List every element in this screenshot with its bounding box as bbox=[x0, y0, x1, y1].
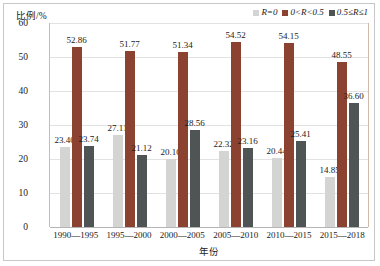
bar-slot: 20.10 bbox=[166, 23, 176, 227]
bar-slot: 21.12 bbox=[137, 23, 147, 227]
bar-group: 27.1151.7721.12 bbox=[103, 23, 156, 227]
bar-slot: 51.77 bbox=[125, 23, 135, 227]
y-tick-label-50: 50 bbox=[0, 52, 28, 62]
bar-slot: 28.56 bbox=[190, 23, 200, 227]
bar[interactable] bbox=[325, 177, 335, 227]
bar[interactable] bbox=[243, 148, 253, 227]
y-tick-label-40: 40 bbox=[0, 86, 28, 96]
x-tick-label: 2005—2010 bbox=[209, 230, 262, 240]
y-tick-label-10: 10 bbox=[0, 188, 28, 198]
y-tick-label-20: 20 bbox=[0, 154, 28, 164]
bar[interactable] bbox=[272, 158, 282, 227]
legend-swatch-r-between-0-and-half bbox=[282, 10, 288, 16]
legend-swatch-r-equals-0 bbox=[253, 10, 259, 16]
bar-slot: 54.15 bbox=[284, 23, 294, 227]
x-tick-label: 2000—2005 bbox=[156, 230, 209, 240]
plot-area: 0102030405060 23.4052.8623.7427.1151.772… bbox=[49, 23, 369, 227]
legend-item-r-equals-0: R=0 bbox=[253, 8, 277, 17]
bar-slot: 54.52 bbox=[231, 23, 241, 227]
y-tick-label-30: 30 bbox=[0, 120, 28, 130]
bar[interactable] bbox=[349, 103, 359, 227]
x-tick-label: 1990—1995 bbox=[49, 230, 102, 240]
bar[interactable] bbox=[296, 141, 306, 227]
bar[interactable] bbox=[166, 159, 176, 227]
gridline-0 bbox=[50, 227, 368, 228]
bar-groups: 23.4052.8623.7427.1151.7721.1220.1051.34… bbox=[50, 23, 368, 227]
bar[interactable] bbox=[113, 135, 123, 227]
x-tick-label: 2015—2018 bbox=[316, 230, 369, 240]
legend-label-r-half-to-one: 0.5≤R≤1 bbox=[337, 8, 368, 17]
bar-value-label: 25.41 bbox=[290, 130, 310, 139]
chart-legend: R=0 0<R<0.5 0.5≤R≤1 bbox=[253, 8, 368, 17]
bar[interactable] bbox=[219, 151, 229, 227]
y-tick-label-0: 0 bbox=[0, 222, 28, 232]
y-tick-label-60: 60 bbox=[0, 18, 28, 28]
bar[interactable] bbox=[190, 130, 200, 227]
bar-value-label: 36.60 bbox=[343, 92, 363, 101]
bar-slot: 23.74 bbox=[84, 23, 94, 227]
bar-slot: 27.11 bbox=[113, 23, 123, 227]
legend-item-r-half-to-one: 0.5≤R≤1 bbox=[329, 8, 368, 17]
bar[interactable] bbox=[125, 51, 135, 227]
bar-group: 20.1051.3428.56 bbox=[156, 23, 209, 227]
bar-group: 22.3254.5223.16 bbox=[209, 23, 262, 227]
bar-slot: 23.40 bbox=[60, 23, 70, 227]
bar-value-label: 21.12 bbox=[131, 144, 151, 153]
bar-slot: 23.16 bbox=[243, 23, 253, 227]
legend-label-r-equals-0: R=0 bbox=[261, 8, 277, 17]
bar-value-label: 23.16 bbox=[237, 137, 257, 146]
bar-value-label: 28.56 bbox=[184, 119, 204, 128]
bar-slot: 36.60 bbox=[349, 23, 359, 227]
bar[interactable] bbox=[60, 147, 70, 227]
bar-group: 20.4454.1525.41 bbox=[262, 23, 315, 227]
bar[interactable] bbox=[84, 146, 94, 227]
legend-item-r-between-0-and-half: 0<R<0.5 bbox=[282, 8, 323, 17]
x-tick-label: 1995—2000 bbox=[102, 230, 155, 240]
bar[interactable] bbox=[137, 155, 147, 227]
bar[interactable] bbox=[337, 62, 347, 227]
x-tick-label: 2010—2015 bbox=[262, 230, 315, 240]
bar-slot: 25.41 bbox=[296, 23, 306, 227]
bar-slot: 20.44 bbox=[272, 23, 282, 227]
legend-swatch-r-half-to-one bbox=[329, 10, 335, 16]
bar-group: 14.8548.5536.60 bbox=[315, 23, 368, 227]
legend-label-r-between-0-and-half: 0<R<0.5 bbox=[290, 8, 323, 17]
bar-slot: 22.32 bbox=[219, 23, 229, 227]
bar[interactable] bbox=[178, 52, 188, 227]
bar-slot: 48.55 bbox=[337, 23, 347, 227]
x-axis-ticks: 1990—19951995—20002000—20052005—20102010… bbox=[49, 230, 369, 240]
bar-value-label: 23.74 bbox=[78, 135, 98, 144]
bar-slot: 52.86 bbox=[72, 23, 82, 227]
bar[interactable] bbox=[231, 42, 241, 227]
bar-group: 23.4052.8623.74 bbox=[50, 23, 103, 227]
x-axis-title: 年份 bbox=[49, 244, 369, 258]
chart-container: 比例/% R=0 0<R<0.5 0.5≤R≤1 0102030405060 2… bbox=[3, 3, 375, 261]
